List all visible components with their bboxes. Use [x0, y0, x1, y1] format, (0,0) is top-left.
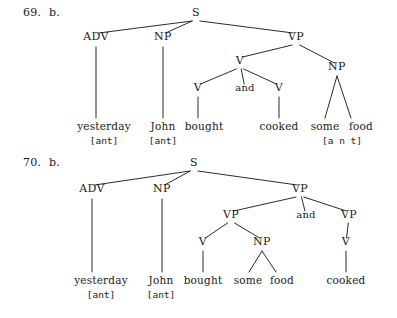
tree-conjunction-and: and — [235, 82, 255, 93]
tree-terminal-word: cooked — [259, 120, 298, 132]
tree-feature-annotation: [ant] — [147, 289, 176, 300]
tree-terminal-word: cooked — [326, 274, 365, 286]
tree-leaf-line-np2 — [337, 76, 351, 118]
tree-node-s: S — [192, 6, 200, 19]
tree-branch-vp-v_top — [243, 45, 292, 57]
tree-leaf-line-np2 — [262, 251, 276, 272]
tree-node-s: S — [190, 156, 198, 169]
tree-node-vp_right: VP — [340, 208, 357, 221]
tree-terminal-word: bought — [184, 274, 223, 286]
tree-node-np2: NP — [253, 235, 271, 248]
tree-terminal-word: bought — [185, 120, 224, 132]
tree-branch-vp_top-vp_left — [234, 197, 296, 211]
tree-node-adv: ADV — [78, 182, 105, 195]
tree-branch-s-vp_top — [198, 171, 297, 185]
tree-leaf-line-np2 — [249, 251, 262, 272]
tree-conjunction-and: and — [296, 209, 316, 220]
figure-70-tree-canvas: SADVNPVPVPandVPVNPVyesterdayJohnboughtso… — [0, 150, 397, 318]
tree-node-vp: VP — [287, 30, 304, 43]
tree-node-np1: NP — [154, 30, 172, 43]
tree-node-adv: ADV — [82, 30, 109, 43]
tree-branch-s-vp — [200, 21, 293, 33]
tree-node-v_top: V — [235, 54, 245, 67]
tree-feature-annotation: [a n t] — [322, 135, 362, 146]
tree-terminal-word: food — [270, 274, 294, 286]
tree-branch-s-adv — [95, 171, 190, 185]
figure-69-syntax-tree: 69. b. SADVNPVPVNPVandVyesterdayJohnboug… — [0, 0, 397, 150]
figure-70-syntax-tree: 70. b. SADVNPVPVPandVPVNPVyesterdayJohnb… — [0, 150, 397, 318]
tree-terminal-word: some — [234, 274, 263, 286]
tree-node-v_left: V — [193, 81, 203, 94]
tree-feature-annotation: [ant] — [90, 135, 119, 146]
tree-terminal-word: some — [311, 120, 340, 132]
tree-branch-v_top-v_left — [201, 69, 237, 84]
tree-node-np1: NP — [153, 182, 171, 195]
tree-feature-annotation: [ant] — [87, 289, 116, 300]
tree-node-v_left: V — [198, 235, 208, 248]
tree-node-v_right: V — [341, 235, 351, 248]
tree-terminal-word: John — [150, 120, 176, 132]
tree-leaf-line-np2 — [325, 76, 337, 118]
tree-node-vp_top: VP — [291, 182, 308, 195]
tree-terminal-word: yesterday — [76, 120, 131, 132]
tree-node-np2: NP — [328, 60, 346, 73]
tree-branch-vp_left-v_left — [205, 223, 227, 238]
tree-node-v_right: V — [274, 81, 284, 94]
tree-feature-annotation: [ant] — [149, 135, 178, 146]
tree-terminal-word: John — [148, 274, 174, 286]
figure-69-tree-canvas: SADVNPVPVNPVandVyesterdayJohnboughtcooke… — [0, 0, 397, 150]
tree-terminal-word: yesterday — [73, 274, 128, 286]
tree-node-vp_left: VP — [222, 208, 239, 221]
tree-terminal-word: food — [349, 120, 373, 132]
